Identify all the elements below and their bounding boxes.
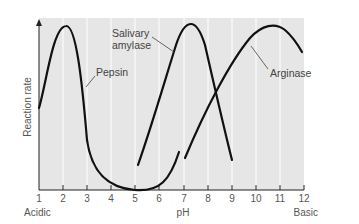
enzyme-ph-chart: 1 2 3 4 5 6 7 8 9 10 11 12 Acidic pH Bas…	[0, 0, 359, 224]
svg-text:5: 5	[132, 193, 138, 204]
x-axis-title: pH	[177, 207, 190, 218]
svg-text:1: 1	[36, 193, 42, 204]
y-axis-title: Reaction rate	[22, 77, 33, 137]
basic-label: Basic	[294, 207, 318, 218]
svg-text:10: 10	[250, 193, 262, 204]
amylase-label: amylase	[112, 39, 151, 51]
svg-text:12: 12	[298, 193, 310, 204]
svg-text:6: 6	[156, 193, 162, 204]
svg-text:2: 2	[60, 193, 66, 204]
svg-text:4: 4	[108, 193, 114, 204]
svg-text:8: 8	[205, 193, 211, 204]
svg-text:11: 11	[275, 193, 286, 204]
plot-area	[39, 18, 304, 190]
salivary-label: Salivary	[112, 27, 150, 39]
acidic-label: Acidic	[24, 207, 51, 218]
arginase-label: Arginase	[270, 67, 312, 79]
svg-text:7: 7	[181, 193, 187, 204]
pepsin-label: Pepsin	[96, 66, 128, 78]
x-tick-labels: 1 2 3 4 5 6 7 8 9 10 11 12	[36, 193, 310, 204]
svg-text:3: 3	[84, 193, 90, 204]
svg-text:9: 9	[229, 193, 235, 204]
